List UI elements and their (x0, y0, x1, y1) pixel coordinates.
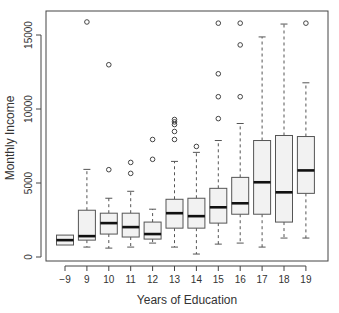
x-tick-label: 14 (191, 274, 203, 285)
x-tick-label: 12 (147, 274, 159, 285)
box-12 (144, 137, 161, 243)
iqr-box (232, 177, 249, 214)
outlier-point (216, 116, 221, 121)
box-9 (78, 20, 95, 247)
box-18 (276, 24, 293, 238)
y-axis-label: Monthly Income (3, 95, 17, 180)
box--9 (57, 235, 74, 245)
outlier-point (304, 21, 309, 26)
y-tick-label: 0 (23, 254, 34, 260)
x-tick-label: 16 (235, 274, 247, 285)
outlier-point (128, 171, 133, 176)
x-axis: −9910111213141516171819 (59, 266, 312, 285)
y-tick-label: 10000 (23, 95, 34, 123)
box-10 (100, 62, 117, 248)
outlier-point (107, 167, 112, 172)
outlier-point (150, 137, 155, 142)
box-plot-chart: 050001000015000 −9910111213141516171819 … (0, 0, 339, 313)
box-16 (232, 21, 249, 243)
plot-area (46, 11, 328, 261)
x-tick-label: 11 (126, 274, 137, 285)
x-tick-label: 19 (300, 274, 312, 285)
outlier-point (172, 137, 177, 142)
box-13 (166, 117, 183, 247)
outlier-point (150, 157, 155, 162)
x-tick-label: 9 (84, 274, 90, 285)
outlier-point (238, 21, 243, 26)
box-11 (122, 160, 139, 247)
outlier-point (238, 94, 243, 99)
iqr-box (144, 222, 161, 239)
x-tick-label: 18 (278, 274, 290, 285)
outlier-point (107, 62, 112, 67)
x-tick-label: −9 (59, 274, 71, 285)
box-19 (297, 21, 314, 238)
x-tick-label: 10 (103, 274, 115, 285)
y-tick-label: 15000 (23, 21, 34, 49)
x-tick-label: 17 (257, 274, 269, 285)
outlier-point (216, 94, 221, 99)
iqr-box (210, 188, 227, 223)
box-17 (254, 37, 271, 247)
y-axis: 050001000015000 (23, 21, 41, 260)
outlier-point (216, 71, 221, 76)
outlier-point (194, 144, 199, 149)
iqr-box (122, 213, 139, 237)
outlier-point (128, 160, 133, 165)
outlier-point (238, 43, 243, 48)
x-tick-label: 13 (169, 274, 181, 285)
x-axis-label: Years of Education (137, 293, 237, 307)
outlier-point (216, 21, 221, 26)
x-tick-label: 15 (213, 274, 225, 285)
outlier-point (172, 129, 177, 134)
box-15 (210, 21, 227, 244)
iqr-box (276, 135, 293, 222)
iqr-box (188, 198, 205, 228)
box-14 (188, 144, 205, 254)
iqr-box (297, 137, 314, 194)
outlier-point (85, 20, 90, 25)
iqr-box (254, 141, 271, 215)
y-tick-label: 5000 (23, 171, 34, 194)
